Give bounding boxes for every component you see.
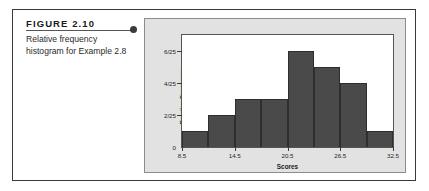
x-axis-tick-label: 32.5 [387,152,399,159]
y-axis-tick-label: 4/25 [164,80,176,87]
x-axis-tick [235,147,236,151]
x-axis-title: Scores [181,163,394,170]
y-axis-tick-label: 0 [173,144,176,151]
histogram-bar [182,131,208,147]
x-axis-tick-label: 26.5 [334,152,346,159]
histogram-bars [182,35,393,147]
histogram-bar [340,83,366,147]
caption-rule [26,30,134,31]
figure-label-row: FIGURE 2.10 [26,18,138,31]
x-axis-tick-label: 20.5 [281,152,293,159]
histogram-bar [235,99,261,147]
figure-caption-block: FIGURE 2.10 Relative frequency histogram… [26,18,138,64]
plot-area: 02/254/256/25 8.514.520.526.532.5 [181,34,394,148]
histogram-bar [314,67,340,147]
histogram-bar [367,131,393,147]
x-axis-tick-label: 14.5 [229,152,241,159]
x-axis-tick [393,147,394,151]
x-axis-tick [340,147,341,151]
chart-panel: Relative Frequency 02/254/256/25 8.514.5… [144,18,406,173]
bullet-dot-icon [130,26,137,33]
caption-line-1: Relative frequency [26,34,138,46]
x-axis-tick [182,147,183,151]
figure-caption-text: Relative frequency histogram for Example… [26,34,138,57]
x-axis-tick [288,147,289,151]
y-axis-tick-label: 2/25 [164,112,176,119]
histogram-bar [261,99,287,147]
figure-label: FIGURE 2.10 [26,18,95,29]
y-axis-tick-label: 6/25 [164,48,176,55]
histogram-bar [288,51,314,147]
histogram-bar [208,115,234,147]
caption-line-2: histogram for Example 2.8 [26,46,138,58]
x-axis-tick-label: 8.5 [178,152,187,159]
figure-root: FIGURE 2.10 Relative frequency histogram… [0,0,429,191]
